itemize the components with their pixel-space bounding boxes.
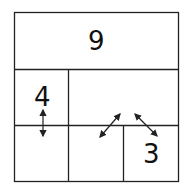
cell-top-label: 9 [88, 28, 105, 54]
cell-bottom-right-label: 3 [143, 141, 160, 167]
cell-middle-left-label: 4 [34, 84, 51, 110]
